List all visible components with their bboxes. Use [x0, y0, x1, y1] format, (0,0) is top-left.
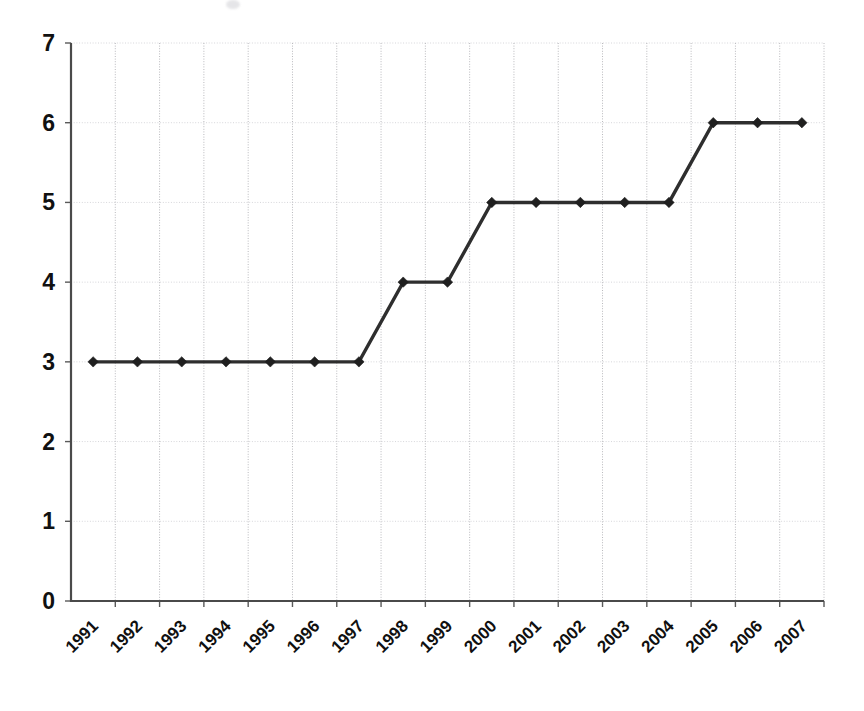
data-point-marker: [309, 357, 319, 367]
x-tick-label: 1998: [372, 616, 412, 656]
data-point-marker: [177, 357, 187, 367]
y-tick-label: 2: [42, 429, 55, 455]
x-tick-label: 1999: [416, 616, 456, 656]
x-tick-label: 2005: [682, 616, 722, 656]
data-point-marker: [221, 357, 231, 367]
data-point-marker: [575, 197, 585, 207]
x-tick-label: 2003: [593, 616, 633, 656]
x-tick-label: 1994: [195, 616, 236, 657]
data-point-marker: [132, 357, 142, 367]
chart-canvas: 01234567 1991199219931994199519961997199…: [0, 0, 864, 711]
data-point-marker: [531, 197, 541, 207]
data-point-marker: [752, 118, 762, 128]
vertical-gridlines: [115, 43, 824, 601]
data-point-marker: [265, 357, 275, 367]
y-tick-label: 4: [42, 269, 55, 295]
x-tick-label: 1997: [328, 616, 368, 656]
y-tick-label: 5: [42, 189, 55, 215]
x-tick-label: 1993: [150, 616, 190, 656]
x-tick-label: 2004: [638, 616, 679, 657]
y-tick-label: 7: [42, 30, 55, 56]
data-series: [88, 118, 807, 368]
y-tick-label: 6: [42, 110, 55, 136]
data-point-marker: [619, 197, 629, 207]
x-tick-label: 2007: [770, 616, 810, 656]
x-tick-label: 1992: [106, 616, 146, 656]
series-line: [93, 123, 802, 362]
line-chart: 01234567 1991199219931994199519961997199…: [0, 0, 864, 711]
x-tick-label: 2002: [549, 616, 589, 656]
y-tick-label: 0: [42, 588, 55, 614]
y-tick-label: 3: [42, 349, 55, 375]
data-point-marker: [88, 357, 98, 367]
x-tick-label: 1996: [283, 616, 323, 656]
x-tick-label: 1991: [62, 616, 102, 656]
x-tick-label: 2001: [505, 616, 545, 656]
x-tick-label: 2006: [726, 616, 766, 656]
scan-artifact: [226, 0, 240, 9]
data-point-marker: [797, 118, 807, 128]
y-axis-tick-labels: 01234567: [42, 30, 55, 614]
x-tick-label: 1995: [239, 616, 279, 656]
x-axis-tick-labels: 1991199219931994199519961997199819992000…: [62, 616, 811, 657]
x-tick-label: 2000: [460, 616, 500, 656]
series-markers: [88, 118, 807, 368]
y-tick-label: 1: [42, 508, 55, 534]
